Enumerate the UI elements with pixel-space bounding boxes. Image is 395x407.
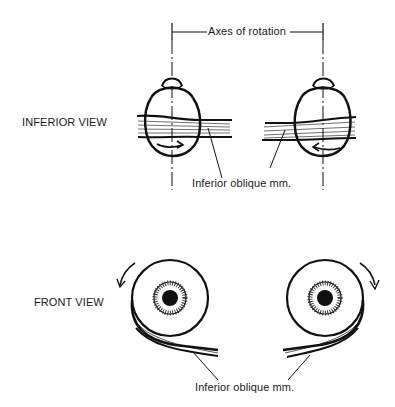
rotation-axis-lines — [172, 40, 323, 190]
axes-of-rotation-label: Axes of rotation — [208, 25, 286, 37]
left-eye-front — [117, 260, 218, 380]
left-eye-inferior — [137, 79, 232, 179]
front-view-muscle-label: Inferior oblique mm. — [195, 381, 294, 393]
right-eye-front — [283, 260, 379, 380]
inferior-view-muscle-label: Inferior oblique mm. — [192, 177, 291, 189]
right-eye-inferior — [262, 79, 356, 169]
inferior-view-title: INFERIOR VIEW — [22, 116, 107, 128]
eye-rotation-diagram — [0, 0, 395, 407]
front-view-title: FRONT VIEW — [34, 296, 104, 308]
